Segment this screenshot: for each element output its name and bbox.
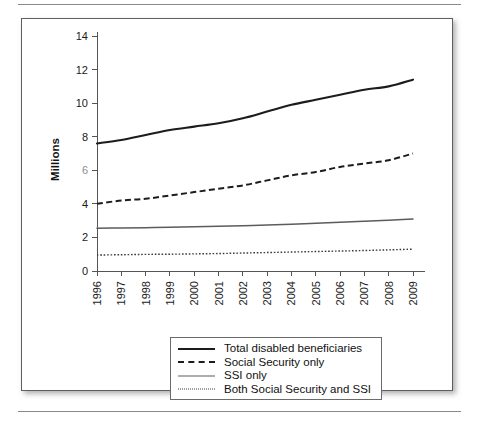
legend-swatch-both	[178, 383, 215, 395]
x-tick-label-2009: 2009	[407, 281, 419, 305]
x-tick-label-1998: 1998	[140, 281, 152, 305]
legend-label-social-security-only: Social Security only	[224, 356, 324, 369]
y-axis-title: Millions	[49, 138, 61, 181]
series-line-social-security-only	[97, 154, 413, 204]
document-page: 02468101214Millions199619971998199920002…	[0, 0, 479, 421]
series-line-both-social-security-and-ssi	[97, 249, 413, 255]
x-tick-label-2005: 2005	[310, 281, 322, 305]
x-tick-label-1999: 1999	[164, 281, 176, 305]
legend-swatch-total	[178, 343, 215, 355]
legend-label-total: Total disabled beneficiaries	[224, 342, 362, 355]
x-tick-label-2006: 2006	[334, 281, 346, 305]
y-tick-label-14: 14	[76, 30, 88, 42]
series-line-total-disabled-beneficiaries	[97, 80, 413, 144]
x-tick-label-2003: 2003	[261, 281, 273, 305]
y-tick-label-8: 8	[82, 131, 88, 143]
legend-item-both-social-security-and-ssi: Both Social Security and SSI	[178, 383, 375, 396]
figure-frame: 02468101214Millions199619971998199920002…	[21, 18, 453, 391]
x-tick-label-1996: 1996	[91, 281, 103, 305]
page-bottom-rule	[18, 411, 461, 412]
legend-swatch-social-security-only	[178, 356, 215, 368]
y-tick-label-4: 4	[82, 198, 88, 210]
legend-label-ssi-only: SSI only	[224, 369, 267, 382]
series-line-ssi-only	[97, 219, 413, 228]
x-tick-label-2001: 2001	[213, 281, 225, 305]
y-tick-label-6: 6	[82, 164, 88, 176]
legend-label-both: Both Social Security and SSI	[224, 383, 371, 396]
x-tick-label-2000: 2000	[188, 281, 200, 305]
legend-item-social-security-only: Social Security only	[178, 356, 375, 369]
x-tick-label-2007: 2007	[358, 281, 370, 305]
legend-swatch-ssi-only	[178, 370, 215, 382]
x-tick-label-2008: 2008	[383, 281, 395, 305]
y-tick-label-10: 10	[76, 97, 88, 109]
y-tick-label-12: 12	[76, 64, 88, 76]
x-tick-label-1997: 1997	[115, 281, 127, 305]
x-tick-label-2004: 2004	[285, 281, 297, 305]
legend-item-total-disabled-beneficiaries: Total disabled beneficiaries	[178, 342, 375, 355]
x-tick-label-2002: 2002	[237, 281, 249, 305]
chart-legend: Total disabled beneficiaries Social Secu…	[170, 337, 382, 400]
y-tick-label-2: 2	[82, 231, 88, 243]
legend-item-ssi-only: SSI only	[178, 369, 375, 382]
page-top-rule	[18, 4, 461, 5]
y-tick-label-0: 0	[82, 265, 88, 277]
